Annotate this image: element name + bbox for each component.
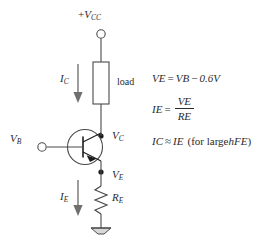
eq3-note-close: ) xyxy=(247,135,251,147)
eq3-note-subscript: FE xyxy=(234,135,247,147)
eq3-note-open: (for large xyxy=(183,135,228,147)
vcc-label: +VCC xyxy=(78,9,101,22)
eq2-denominator: RE xyxy=(175,109,194,122)
ve-subscript: E xyxy=(119,173,124,182)
re-subscript: E xyxy=(119,196,124,205)
vcc-var: V xyxy=(84,8,91,20)
equation-ve: VE = VB − 0.6V xyxy=(152,72,252,84)
vc-var: V xyxy=(112,129,119,141)
eq1-lhs-subscript: E xyxy=(159,72,166,84)
eq3-rhs-subscript: E xyxy=(177,135,184,147)
vb-terminal-circle xyxy=(38,143,46,151)
re-var: R xyxy=(112,191,119,203)
equation-ic-approx: IC ≈ IE (for large hFE) xyxy=(152,135,252,147)
collector-current-label: IC xyxy=(60,73,69,86)
emitter-node-label: VE xyxy=(112,169,123,182)
equation-ie: IE = VE RE xyxy=(152,95,252,122)
emitter-resistor-zigzag xyxy=(95,186,107,214)
ic-subscript: C xyxy=(64,77,69,86)
circuit-diagram-page: +VCC load IC VC VB VE IE RE VE = VB − 0.… xyxy=(0,0,253,242)
eq2-fraction: VE RE xyxy=(175,95,194,122)
eq2-lhs-subscript: E xyxy=(156,103,163,115)
vcc-subscript: CC xyxy=(91,13,101,22)
vb-var: V xyxy=(10,132,17,144)
ve-var: V xyxy=(112,168,119,180)
base-terminal-label: VB xyxy=(10,133,21,146)
emitter-current-label: IE xyxy=(60,191,68,204)
emitter-current-arrow-head xyxy=(73,205,82,216)
eq2-equals: = xyxy=(162,103,172,115)
eq2-den-subscript: E xyxy=(184,110,191,122)
vb-subscript: B xyxy=(17,137,22,146)
vcc-terminal-circle xyxy=(97,30,105,38)
ie-subscript: E xyxy=(64,195,69,204)
ground-symbol xyxy=(91,228,111,234)
equation-list: VE = VB − 0.6V IE = VE RE IC ≈ IE (for l… xyxy=(152,72,252,147)
eq3-lhs-subscript: C xyxy=(156,135,163,147)
eq1-minus: − xyxy=(189,72,199,84)
collector-node-label: VC xyxy=(112,130,124,143)
vc-subscript: C xyxy=(119,134,124,143)
emitter-resistor-label: RE xyxy=(112,192,123,205)
eq2-numerator: VE xyxy=(175,95,194,108)
load-resistor-box xyxy=(93,62,109,104)
eq1-lhs-var: V xyxy=(152,72,159,84)
eq1-equals: = xyxy=(165,72,175,84)
eq2-num-subscript: E xyxy=(184,95,191,107)
collector-current-arrow-head xyxy=(73,92,82,103)
eq1-value: 0.6V xyxy=(199,72,219,84)
eq3-approx-sign: ≈ xyxy=(163,135,173,147)
eq1-rhs-subscript: B xyxy=(182,72,189,84)
eq1-rhs-var: V xyxy=(176,72,183,84)
load-label: load xyxy=(117,77,134,87)
